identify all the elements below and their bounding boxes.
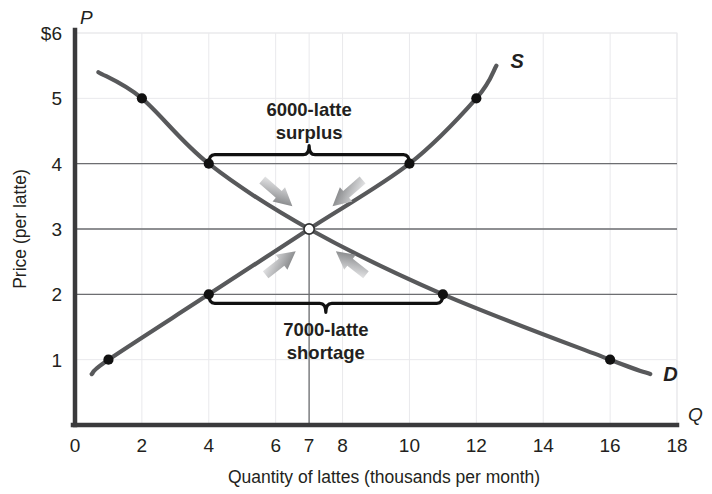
svg-text:7: 7 — [304, 435, 315, 456]
svg-text:shortage: shortage — [287, 342, 365, 363]
svg-text:Quantity of lattes (thousands: Quantity of lattes (thousands per month) — [228, 467, 540, 487]
axes — [73, 30, 677, 425]
svg-text:2: 2 — [137, 435, 148, 456]
svg-text:1: 1 — [51, 350, 62, 371]
svg-text:2: 2 — [51, 284, 62, 305]
svg-text:3: 3 — [51, 219, 62, 240]
svg-text:4: 4 — [51, 154, 62, 175]
reference-lines — [75, 164, 677, 425]
svg-text:P: P — [80, 7, 93, 28]
svg-text:D: D — [663, 363, 677, 385]
svg-text:4: 4 — [203, 435, 214, 456]
svg-text:0: 0 — [70, 435, 81, 456]
svg-text:8: 8 — [337, 435, 348, 456]
svg-text:Price (per latte): Price (per latte) — [10, 169, 30, 289]
svg-text:18: 18 — [666, 435, 687, 456]
svg-text:10: 10 — [399, 435, 420, 456]
svg-text:$6: $6 — [41, 23, 62, 44]
svg-text:6: 6 — [270, 435, 281, 456]
svg-text:6000-latte: 6000-latte — [266, 99, 351, 120]
svg-text:surplus: surplus — [276, 122, 343, 143]
chart-canvas: 12345$60246781012141618PQQuantity of lat… — [0, 0, 712, 494]
svg-text:16: 16 — [600, 435, 621, 456]
svg-text:S: S — [510, 50, 524, 72]
svg-text:5: 5 — [51, 88, 62, 109]
svg-text:14: 14 — [533, 435, 555, 456]
curves — [92, 66, 651, 374]
svg-text:12: 12 — [466, 435, 487, 456]
supply-demand-chart-figure: 12345$60246781012141618PQQuantity of lat… — [0, 0, 712, 494]
svg-text:Q: Q — [688, 404, 703, 425]
svg-text:7000-latte: 7000-latte — [283, 319, 368, 340]
